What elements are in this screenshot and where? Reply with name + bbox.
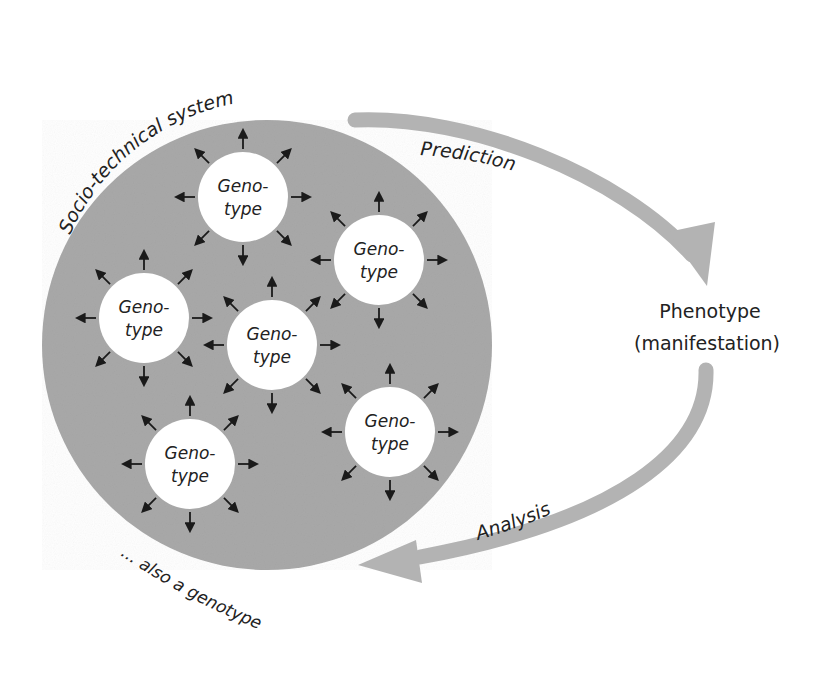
genotype-node: Geno- type	[334, 215, 424, 305]
genotype-node: Geno- type	[99, 273, 189, 363]
genotype-label-line1: Geno-	[247, 324, 298, 344]
genotype-label-line1: Geno-	[119, 297, 170, 317]
genotype-label-line1: Geno-	[354, 239, 405, 259]
genotype-node: Geno- type	[198, 152, 288, 242]
genotype-phenotype-diagram: Socio-technical system Prediction Phenot…	[0, 0, 831, 676]
phenotype-label: Phenotype	[659, 300, 760, 322]
genotype-label-line1: Geno-	[218, 176, 269, 196]
genotype-node: Geno- type	[145, 419, 235, 509]
genotype-label-line2: type	[253, 347, 291, 367]
genotype-label-line1: Geno-	[365, 411, 416, 431]
genotype-node: Geno- type	[227, 300, 317, 390]
genotype-label-line2: type	[371, 434, 409, 454]
phenotype-sublabel: (manifestation)	[634, 332, 780, 354]
genotype-label-line2: type	[360, 262, 398, 282]
genotype-label-line2: type	[171, 466, 209, 486]
genotype-label-line2: type	[224, 199, 262, 219]
genotype-node: Geno- type	[345, 387, 435, 477]
genotype-label-line1: Geno-	[165, 443, 216, 463]
genotype-label-line2: type	[125, 320, 163, 340]
